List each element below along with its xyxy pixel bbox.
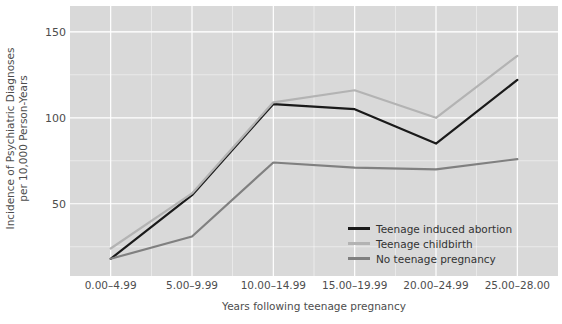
chart-legend: Teenage induced abortionTeenage childbir… — [348, 222, 512, 265]
y-axis-tick-label: 50 — [36, 197, 66, 210]
legend-swatch-icon — [348, 227, 370, 230]
y-axis-title-line2: per 10,000 Person-Years — [17, 47, 30, 229]
legend-item: No teenage pregnancy — [348, 252, 512, 265]
legend-item-label: No teenage pregnancy — [376, 253, 496, 265]
x-axis-tick-label: 10.00–14.99 — [241, 279, 306, 291]
x-axis-tick-label: 0.00–4.99 — [85, 279, 137, 291]
legend-swatch-icon — [348, 242, 370, 245]
x-axis-tick-label: 5.00–9.99 — [166, 279, 218, 291]
legend-swatch-icon — [348, 257, 370, 260]
x-axis-tick-labels: 0.00–4.995.00–9.9910.00–14.9915.00–19.99… — [70, 279, 558, 297]
legend-item-label: Teenage childbirth — [376, 238, 473, 250]
x-axis-tick-label: 25.00–28.00 — [485, 279, 550, 291]
x-axis-tick-label: 15.00–19.99 — [322, 279, 387, 291]
y-axis-tick-label: 100 — [36, 111, 66, 124]
chart-figure: Incidence of Psychiatric Diagnoses per 1… — [0, 0, 562, 324]
y-axis-title: Incidence of Psychiatric Diagnoses per 1… — [0, 0, 34, 276]
legend-item: Teenage induced abortion — [348, 222, 512, 235]
x-axis-tick-label: 20.00–24.99 — [403, 279, 468, 291]
y-axis-tick-label: 150 — [36, 25, 66, 38]
legend-item-label: Teenage induced abortion — [376, 223, 512, 235]
y-axis-title-line1: Incidence of Psychiatric Diagnoses — [5, 47, 17, 229]
y-axis-tick-labels: 50100150 — [34, 0, 66, 324]
legend-item: Teenage childbirth — [348, 237, 512, 250]
x-axis-title: Years following teenage pregnancy — [70, 300, 558, 312]
